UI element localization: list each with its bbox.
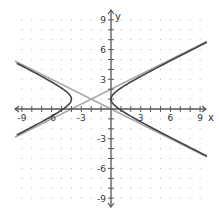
grid-dot — [120, 138, 121, 139]
grid-dot — [81, 79, 82, 80]
grid-dot — [51, 39, 52, 40]
grid-dot — [130, 158, 131, 159]
grid-dot — [140, 198, 141, 199]
grid-dot — [200, 19, 201, 20]
grid-dot — [140, 49, 141, 50]
grid-dot — [150, 89, 151, 90]
grid-dot — [81, 19, 82, 20]
grid-dot — [120, 69, 121, 70]
grid-dot — [190, 128, 191, 129]
x-tick-label: -3 — [77, 113, 86, 123]
grid-dot — [190, 178, 191, 179]
grid-dot — [81, 138, 82, 139]
grid-dot — [31, 118, 32, 119]
grid-dot — [71, 148, 72, 149]
grid-dot — [31, 148, 32, 149]
grid-dot — [170, 188, 171, 189]
grid-dot — [91, 138, 92, 139]
grid-dot — [41, 178, 42, 179]
grid-dot — [160, 148, 161, 149]
grid-dot — [81, 168, 82, 169]
grid-dot — [150, 79, 151, 80]
grid-dot — [101, 188, 102, 189]
grid-dot — [51, 128, 52, 129]
grid-dot — [91, 158, 92, 159]
grid-dot — [190, 79, 191, 80]
grid-dot — [41, 198, 42, 199]
grid-dot — [31, 29, 32, 30]
grid-dot — [41, 118, 42, 119]
grid-dot — [71, 168, 72, 169]
y-tick-label: -6 — [97, 164, 106, 174]
grid-dot — [61, 188, 62, 189]
grid-dot — [160, 198, 161, 199]
grid-dot — [31, 188, 32, 189]
grid-dot — [150, 188, 151, 189]
grid-dot — [120, 49, 121, 50]
grid-dot — [91, 59, 92, 60]
grid-dot — [140, 158, 141, 159]
grid-dot — [91, 118, 92, 119]
grid-dot — [170, 158, 171, 159]
grid-dot — [91, 168, 92, 169]
grid-dot — [51, 168, 52, 169]
grid-dot — [140, 29, 141, 30]
grid-dot — [170, 69, 171, 70]
grid-dot — [120, 168, 121, 169]
grid-dot — [91, 39, 92, 40]
grid-dot — [130, 39, 131, 40]
x-tick-label: -9 — [17, 113, 26, 123]
grid-dot — [190, 19, 191, 20]
grid-dot — [150, 99, 151, 100]
grid-dot — [101, 148, 102, 149]
grid-dot — [21, 148, 22, 149]
grid-dot — [31, 79, 32, 80]
grid-dot — [71, 188, 72, 189]
grid-dot — [170, 148, 171, 149]
grid-dot — [21, 29, 22, 30]
grid-dot — [81, 29, 82, 30]
grid-dot — [150, 59, 151, 60]
grid-dot — [130, 178, 131, 179]
grid-dot — [91, 49, 92, 50]
grid-dot — [81, 89, 82, 90]
grid-dot — [81, 39, 82, 40]
y-tick-label: -3 — [97, 134, 106, 144]
grid-dot — [190, 198, 191, 199]
grid-dot — [41, 148, 42, 149]
grid-dot — [150, 39, 151, 40]
grid-dot — [200, 49, 201, 50]
grid-dot — [51, 69, 52, 70]
grid-dot — [21, 188, 22, 189]
grid-dot — [160, 49, 161, 50]
y-tick-label: 3 — [100, 75, 106, 85]
grid-dot — [170, 178, 171, 179]
grid-dot — [160, 89, 161, 90]
grid-dot — [51, 158, 52, 159]
grid-dot — [140, 188, 141, 189]
grid-dot — [190, 59, 191, 60]
grid-dot — [160, 59, 161, 60]
grid-dot — [200, 198, 201, 199]
grid-dot — [170, 198, 171, 199]
grid-dot — [71, 178, 72, 179]
grid-dot — [51, 49, 52, 50]
grid-dot — [140, 19, 141, 20]
grid-dot — [101, 89, 102, 90]
grid-dot — [170, 89, 171, 90]
grid-dot — [81, 148, 82, 149]
grid-dot — [200, 29, 201, 30]
grid-dot — [180, 29, 181, 30]
grid-dot — [130, 168, 131, 169]
grid-dot — [71, 59, 72, 60]
grid-dot — [120, 188, 121, 189]
grid-dot — [160, 118, 161, 119]
x-axis-label: x — [208, 112, 214, 123]
grid-dot — [21, 59, 22, 60]
grid-dot — [130, 59, 131, 60]
grid-dot — [180, 138, 181, 139]
grid-dot — [31, 178, 32, 179]
grid-dot — [61, 79, 62, 80]
grid-dot — [101, 59, 102, 60]
grid-dot — [101, 69, 102, 70]
